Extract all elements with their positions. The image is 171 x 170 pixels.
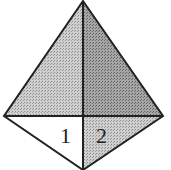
kite-diagram: 1 2 <box>0 0 171 170</box>
region-label-1: 1 <box>60 123 71 148</box>
region-label-2: 2 <box>96 123 107 148</box>
